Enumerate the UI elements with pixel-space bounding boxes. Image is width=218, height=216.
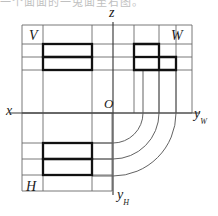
front-view-shape [43, 44, 92, 70]
yw-axis-subscript: W [200, 117, 207, 126]
front-view-label: V [29, 29, 38, 43]
top-view-label: H [26, 180, 36, 194]
top-view-shape [43, 143, 92, 175]
projection-arc-1 [113, 113, 143, 143]
top-view-rect-upper [43, 143, 92, 159]
front-view-rect-lower [43, 57, 92, 70]
z-axis-label: z [109, 6, 114, 20]
front-view-rect-upper [43, 44, 92, 57]
projection-arc-3 [113, 113, 176, 176]
projection-arc-2 [113, 113, 159, 159]
yw-axis-label: yW [194, 107, 207, 124]
side-view-label: W [171, 29, 183, 43]
yh-axis-label: yH [117, 188, 129, 205]
side-view-shape [134, 44, 176, 70]
origin-label: O [104, 97, 113, 110]
top-view-rect-lower [43, 159, 92, 175]
x-axis-label: x [6, 104, 12, 118]
figure-page: 一个面面的一兔面至右图。 [0, 0, 218, 216]
yh-axis-subscript: H [123, 198, 129, 207]
